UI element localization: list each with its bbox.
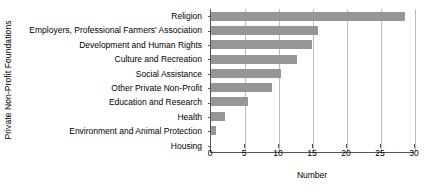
bar-row — [211, 38, 414, 52]
bar — [211, 55, 297, 64]
x-axis-tick-label: 20 — [341, 149, 350, 158]
bar — [211, 83, 272, 92]
y-axis-title-text: Private Non-Profit Foundations — [3, 20, 13, 139]
bar-row — [211, 80, 414, 94]
y-axis-tick-label: Housing — [18, 139, 206, 153]
bar-row — [211, 66, 414, 80]
bar — [211, 69, 281, 78]
bar — [211, 97, 248, 106]
y-axis-tick-labels: Religion Employers, Professional Farmers… — [18, 9, 206, 153]
bar-row — [211, 123, 414, 137]
plot-area — [210, 9, 414, 153]
bar-chart-figure: Private Non-Profit Foundations Religion … — [0, 0, 429, 192]
y-axis-tick-label: Development and Human Rights — [18, 38, 206, 52]
bar-row — [211, 52, 414, 66]
bar-row — [211, 9, 414, 23]
bar — [211, 40, 312, 49]
y-axis-tick-label: Other Private Non-Profit — [18, 81, 206, 95]
y-axis-tick-label: Employers, Professional Farmers' Associa… — [18, 23, 206, 37]
x-axis-tick-label: 5 — [242, 149, 247, 158]
bar-row — [211, 23, 414, 37]
gridline — [415, 9, 416, 152]
y-axis-tick-label: Social Assistance — [18, 67, 206, 81]
x-axis-tick-label: 15 — [307, 149, 316, 158]
y-axis-tick-label: Education and Research — [18, 95, 206, 109]
x-axis-tick-label: 30 — [409, 149, 418, 158]
bar — [211, 12, 405, 21]
y-axis-tick-label: Environment and Animal Protection — [18, 124, 206, 138]
bar-row — [211, 95, 414, 109]
y-axis-title: Private Non-Profit Foundations — [0, 0, 16, 160]
bar — [211, 26, 318, 35]
bar-series — [211, 9, 414, 152]
bar — [211, 126, 216, 135]
y-axis-tick-label: Health — [18, 110, 206, 124]
y-axis-tick-label: Religion — [18, 9, 206, 23]
x-axis-tick-label: 0 — [208, 149, 213, 158]
x-axis-tick-label: 10 — [273, 149, 282, 158]
bar-row — [211, 109, 414, 123]
y-axis-tick-label: Culture and Recreation — [18, 52, 206, 66]
x-axis-title: Number — [210, 171, 414, 180]
bar — [211, 112, 225, 121]
x-axis-tick-label: 25 — [375, 149, 384, 158]
